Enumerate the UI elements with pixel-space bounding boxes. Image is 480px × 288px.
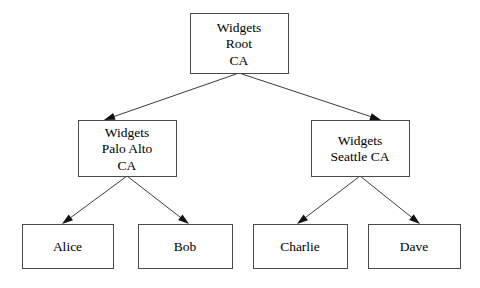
- tree-diagram: WidgetsRootCAWidgetsPalo AltoCAWidgetsSe…: [0, 0, 480, 288]
- edge-line: [360, 176, 413, 218]
- node-charlie[interactable]: Charlie: [254, 225, 348, 269]
- node-label-line: Charlie: [280, 239, 320, 254]
- edge-line: [127, 176, 182, 218]
- node-label-line: Bob: [174, 239, 197, 254]
- edge-palo-alto-to-bob: [127, 176, 189, 224]
- edge-line: [239, 73, 372, 117]
- node-label: Bob: [174, 239, 197, 254]
- arrow-head-icon: [297, 214, 308, 224]
- node-label-line: Alice: [53, 239, 82, 254]
- node-label: Charlie: [280, 239, 320, 254]
- node-layer: WidgetsRootCAWidgetsPalo AltoCAWidgetsSe…: [23, 14, 461, 269]
- node-seattle[interactable]: WidgetsSeattle CA: [312, 121, 410, 177]
- arrow-head-icon: [178, 214, 189, 224]
- node-label-line: Root: [226, 36, 253, 51]
- node-label-line: CA: [230, 53, 249, 68]
- arrow-head-icon: [409, 214, 420, 224]
- node-bob[interactable]: Bob: [139, 225, 233, 269]
- edge-line: [69, 176, 127, 219]
- edge-root-to-palo-alto: [104, 73, 239, 120]
- arrow-head-icon: [62, 215, 73, 224]
- node-label: Alice: [53, 239, 82, 254]
- node-palo-alto[interactable]: WidgetsPalo AltoCA: [79, 121, 177, 177]
- node-alice[interactable]: Alice: [23, 225, 114, 269]
- edge-seattle-to-charlie: [297, 176, 360, 224]
- edge-root-to-seattle: [239, 73, 381, 120]
- node-label-line: Widgets: [105, 125, 149, 140]
- node-label: Dave: [400, 239, 428, 254]
- node-label-line: Dave: [400, 239, 428, 254]
- node-label-line: Widgets: [217, 20, 261, 35]
- node-dave[interactable]: Dave: [369, 225, 461, 269]
- node-label-line: Seattle CA: [331, 149, 390, 164]
- edge-seattle-to-dave: [360, 176, 420, 224]
- arrow-head-icon: [369, 113, 381, 120]
- edge-line: [304, 176, 360, 219]
- node-root[interactable]: WidgetsRootCA: [191, 14, 289, 74]
- node-label-line: Widgets: [338, 133, 382, 148]
- node-label: WidgetsSeattle CA: [331, 133, 390, 165]
- node-label-line: CA: [118, 158, 137, 173]
- tree-diagram-canvas: WidgetsRootCAWidgetsPalo AltoCAWidgetsSe…: [0, 0, 480, 288]
- edge-palo-alto-to-alice: [62, 176, 127, 224]
- edge-line: [112, 73, 239, 117]
- arrow-head-icon: [104, 113, 116, 120]
- node-label-line: Palo Alto: [102, 141, 153, 156]
